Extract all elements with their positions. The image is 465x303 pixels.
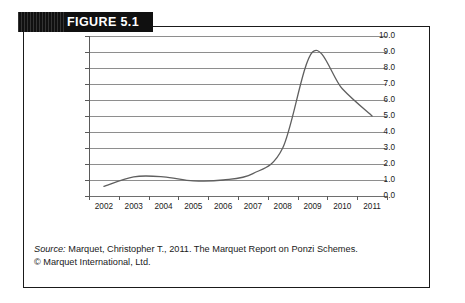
caption-line-2: © Marquet International, Ltd. <box>34 257 151 267</box>
figure-label: FIGURE 5.1 <box>67 15 139 29</box>
banner-texture-block <box>18 12 64 32</box>
data-series-line <box>55 30 395 230</box>
line-chart: 10.09.08.07.06.05.04.03.02.01.00.0 20022… <box>55 30 395 230</box>
caption-source-word: Source: <box>34 244 66 254</box>
series-path-ponzi-schemes <box>104 50 372 186</box>
figure-banner: FIGURE 5.1 <box>18 12 153 32</box>
caption-line-1: Marquet, Christopher T., 2011. The Marqu… <box>66 244 358 254</box>
figure-caption: Source: Marquet, Christopher T., 2011. T… <box>34 243 404 270</box>
